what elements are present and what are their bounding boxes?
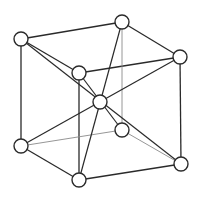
cube-edge — [122, 22, 180, 57]
atoms — [14, 15, 188, 187]
atom-bottom-front-right — [174, 157, 188, 171]
cube-edge — [180, 57, 181, 164]
bcc-unit-cell-diagram — [0, 0, 203, 200]
atom-top-back-left — [14, 32, 28, 46]
atom-top-front-left — [72, 66, 86, 80]
cube-edge — [79, 164, 181, 180]
unit-cell-canvas — [0, 0, 203, 200]
atom-top-front-right — [173, 50, 187, 64]
cube-edge — [21, 39, 79, 73]
atom-top-back-right — [115, 15, 129, 29]
atom-body-center — [93, 95, 107, 109]
atom-bottom-back-left — [14, 139, 28, 153]
atom-bottom-front-left — [72, 173, 86, 187]
atom-bottom-back-right — [115, 123, 129, 137]
hidden-cube-edge — [122, 130, 181, 164]
cube-edge — [21, 22, 122, 39]
cube-edge — [21, 146, 79, 180]
